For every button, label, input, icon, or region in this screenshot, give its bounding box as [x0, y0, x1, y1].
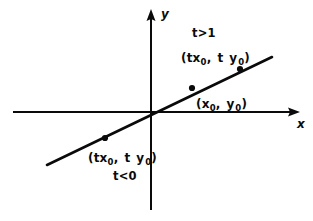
point-marker-base [189, 85, 195, 91]
condition-label-t-greater-than-one: t>1 [192, 28, 216, 40]
point-label-sub-first: 0 [201, 57, 207, 67]
point-label-t-greater-than-one: (tx0, t y0) [181, 52, 250, 64]
point-label-head: (tx [181, 51, 201, 65]
point-label-head: (tx [88, 151, 108, 165]
figure-canvas: y x t>1 t<0 (tx0, t y0) (x0, y0) (tx0, t… [0, 0, 313, 221]
coordinate-diagram-svg [0, 0, 313, 221]
point-label-middle: , y [216, 97, 236, 111]
point-label-close: ) [241, 97, 247, 111]
point-label-middle: , t y [207, 51, 238, 65]
point-label-sub-second: 0 [145, 157, 151, 167]
point-label-head: (x [196, 97, 210, 111]
point-label-middle: , t y [114, 151, 145, 165]
point-label-sub-second: 0 [238, 57, 244, 67]
point-label-sub-first: 0 [108, 157, 114, 167]
condition-label-t-less-than-zero: t<0 [113, 171, 137, 183]
point-label-t-negative: (tx0, t y0) [88, 152, 157, 164]
point-marker-t-negative [102, 135, 108, 141]
point-label-sub-first: 0 [210, 103, 216, 113]
point-label-close: ) [244, 51, 250, 65]
point-label-close: ) [151, 151, 157, 165]
y-axis-label: y [161, 8, 169, 20]
y-axis [147, 9, 156, 210]
point-label-sub-second: 0 [235, 103, 241, 113]
x-axis-label: x [297, 118, 305, 130]
point-label-base: (x0, y0) [196, 98, 247, 110]
